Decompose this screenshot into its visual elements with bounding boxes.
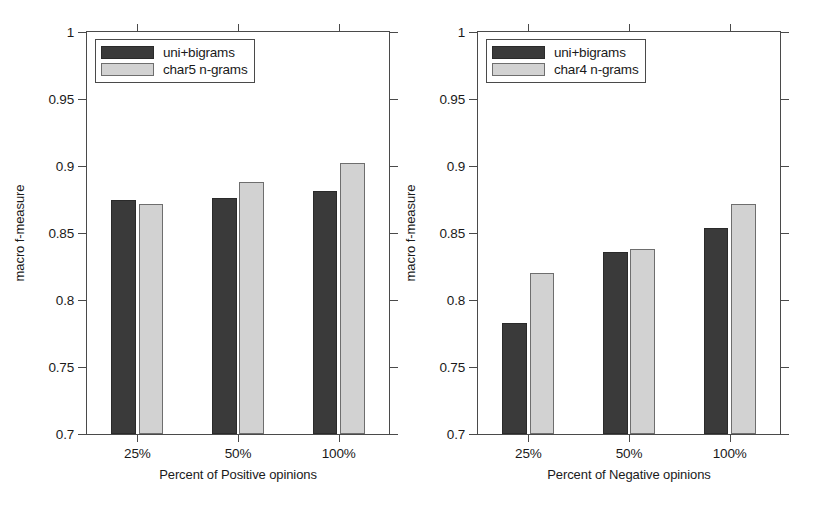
y-axis-tick-mirror — [780, 367, 789, 368]
y-axis-tick-label: 0.75 — [440, 360, 465, 375]
y-axis-tick-label: 0.75 — [49, 360, 74, 375]
y-axis-tick — [78, 99, 87, 100]
y-axis-tick — [78, 233, 87, 234]
bar-group-container-right — [478, 32, 780, 434]
x-axis-tick — [238, 434, 239, 442]
bar — [239, 182, 264, 434]
y-axis-tick-mirror — [389, 367, 398, 368]
x-axis-tick-mirror — [137, 24, 138, 32]
y-axis-tick-mirror — [780, 166, 789, 167]
y-axis-tick-label: 0.85 — [440, 226, 465, 241]
y-axis-tick — [78, 434, 87, 435]
y-axis-title-right: macro f-measure — [403, 185, 418, 282]
panel-negative-opinions: uni+bigrams char4 n-grams macro f-measur… — [409, 0, 819, 508]
bar — [704, 228, 729, 434]
legend-swatch-series-0 — [492, 46, 545, 59]
y-axis-tick-mirror — [389, 32, 398, 33]
y-axis-tick-mirror — [389, 233, 398, 234]
y-axis-tick — [469, 32, 478, 33]
x-axis-tick — [730, 434, 731, 442]
y-axis-tick — [469, 300, 478, 301]
legend-swatch-series-1 — [101, 63, 154, 76]
plot-area-right: uni+bigrams char4 n-grams macro f-measur… — [477, 31, 781, 435]
x-axis-title-left: Percent of Positive opinions — [159, 467, 317, 482]
x-axis-title-right: Percent of Negative opinions — [547, 467, 710, 482]
legend-entry: char4 n-grams — [492, 61, 638, 78]
legend-swatch-series-1 — [492, 63, 545, 76]
y-axis-tick — [78, 367, 87, 368]
x-axis-tick-label: 25% — [124, 446, 150, 461]
legend-right: uni+bigrams char4 n-grams — [486, 39, 646, 83]
x-axis-tick-mirror — [339, 24, 340, 32]
y-axis-title-left: macro f-measure — [12, 185, 27, 282]
bar — [603, 252, 628, 434]
y-axis-tick — [469, 434, 478, 435]
bar — [139, 204, 164, 434]
bar — [340, 163, 365, 434]
y-axis-tick — [469, 233, 478, 234]
y-axis-tick — [78, 32, 87, 33]
y-axis-tick-label: 1 — [458, 25, 465, 40]
legend-label-series-0: uni+bigrams — [163, 45, 235, 60]
x-axis-tick-label: 50% — [616, 446, 642, 461]
y-axis-tick-mirror — [389, 99, 398, 100]
bar — [313, 191, 338, 434]
y-axis-tick — [469, 99, 478, 100]
panel-positive-opinions: uni+bigrams char5 n-grams macro f-measur… — [0, 0, 409, 508]
legend-entry: uni+bigrams — [101, 44, 247, 61]
y-axis-tick-mirror — [780, 300, 789, 301]
y-axis-tick-mirror — [389, 434, 398, 435]
y-axis-tick-mirror — [780, 32, 789, 33]
x-axis-tick — [629, 434, 630, 442]
x-axis-tick — [137, 434, 138, 442]
legend-entry: uni+bigrams — [492, 44, 638, 61]
y-axis-tick-mirror — [389, 300, 398, 301]
bar — [731, 204, 756, 434]
x-axis-tick — [528, 434, 529, 442]
y-axis-tick-label: 0.7 — [56, 427, 74, 442]
bar — [502, 323, 527, 434]
legend-entry: char5 n-grams — [101, 61, 247, 78]
bar-group-container-left — [87, 32, 389, 434]
y-axis-tick-label: 0.95 — [49, 91, 74, 106]
y-axis-tick-label: 0.9 — [447, 158, 465, 173]
x-axis-tick-label: 50% — [225, 446, 251, 461]
x-axis-tick-mirror — [629, 24, 630, 32]
y-axis-tick-label: 0.95 — [440, 91, 465, 106]
y-axis-tick-label: 0.9 — [56, 158, 74, 173]
plot-area-left: uni+bigrams char5 n-grams macro f-measur… — [86, 31, 390, 435]
legend-label-series-1: char4 n-grams — [554, 62, 638, 77]
y-axis-tick-label: 0.8 — [56, 292, 74, 307]
y-axis-tick-label: 0.7 — [447, 427, 465, 442]
y-axis-tick — [78, 300, 87, 301]
figure-two-panel-bar-charts: uni+bigrams char5 n-grams macro f-measur… — [0, 0, 819, 508]
x-axis-tick-label: 100% — [322, 446, 356, 461]
y-axis-tick — [78, 166, 87, 167]
y-axis-tick-label: 0.8 — [447, 292, 465, 307]
y-axis-tick-mirror — [780, 99, 789, 100]
y-axis-tick-label: 1 — [67, 25, 74, 40]
y-axis-tick — [469, 166, 478, 167]
x-axis-tick-mirror — [730, 24, 731, 32]
bar — [630, 249, 655, 434]
bar — [530, 273, 555, 434]
y-axis-tick-mirror — [389, 166, 398, 167]
x-axis-tick-label: 25% — [515, 446, 541, 461]
bar — [111, 200, 136, 435]
y-axis-tick — [469, 367, 478, 368]
legend-label-series-1: char5 n-grams — [163, 62, 247, 77]
y-axis-tick-mirror — [780, 434, 789, 435]
legend-label-series-0: uni+bigrams — [554, 45, 626, 60]
x-axis-tick — [339, 434, 340, 442]
x-axis-tick-mirror — [528, 24, 529, 32]
y-axis-tick-label: 0.85 — [49, 226, 74, 241]
x-axis-tick-label: 100% — [713, 446, 747, 461]
legend-left: uni+bigrams char5 n-grams — [95, 39, 255, 83]
x-axis-tick-mirror — [238, 24, 239, 32]
y-axis-tick-mirror — [780, 233, 789, 234]
legend-swatch-series-0 — [101, 46, 154, 59]
bar — [212, 198, 237, 434]
